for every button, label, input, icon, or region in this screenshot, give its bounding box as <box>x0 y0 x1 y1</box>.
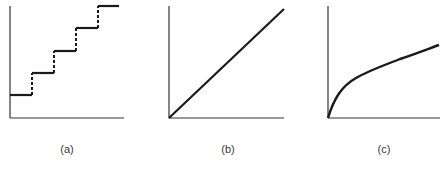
panel-a-steps <box>10 6 119 95</box>
panel-c <box>328 6 440 118</box>
panel-c-label: (c) <box>378 143 391 155</box>
panel-b-line <box>169 9 284 118</box>
panel-b-label: (b) <box>221 143 234 155</box>
panel-a-label: (a) <box>60 143 73 155</box>
panel-b <box>169 6 284 118</box>
panel-c-curve <box>328 45 439 118</box>
panel-a <box>10 6 124 118</box>
